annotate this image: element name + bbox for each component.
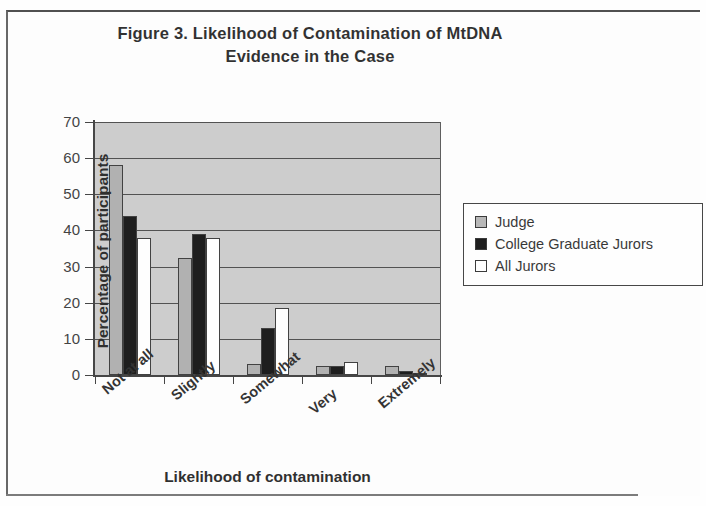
x-tick-5	[440, 376, 441, 384]
bar-very-college-graduate-jurors	[330, 366, 344, 375]
legend-item-all-jurors[interactable]: All Jurors	[475, 255, 702, 277]
legend-label: All Jurors	[495, 258, 555, 274]
x-tick-1	[164, 376, 165, 384]
y-tick-label-50: 50	[36, 185, 80, 202]
legend-item-college-graduate-jurors[interactable]: College Graduate Jurors	[475, 233, 702, 255]
legend-swatch-icon-all-jurors	[475, 260, 487, 272]
gridline-40	[95, 230, 440, 231]
bar-very-all-jurors	[344, 362, 358, 375]
gridline-60	[95, 158, 440, 159]
figure-frame-bottom-edge	[6, 494, 638, 496]
y-tick-10	[85, 339, 94, 340]
x-axis-title: Likelihood of contamination	[95, 468, 440, 486]
y-tick-70	[85, 122, 94, 123]
legend-swatch-icon-college-graduate-jurors	[475, 238, 487, 250]
y-tick-label-0: 0	[36, 366, 80, 383]
legend-label: College Graduate Jurors	[495, 236, 653, 252]
bar-slightly-judge	[178, 258, 192, 375]
x-tick-0	[95, 376, 96, 384]
legend-label: Judge	[495, 214, 535, 230]
legend-swatch-icon-judge	[475, 216, 487, 228]
bar-slightly-college-graduate-jurors	[192, 234, 206, 375]
y-tick-0	[85, 375, 94, 376]
x-tick-2	[233, 376, 234, 384]
y-tick-20	[85, 303, 94, 304]
y-tick-50	[85, 194, 94, 195]
y-tick-40	[85, 230, 94, 231]
bar-slightly-all-jurors	[206, 238, 220, 375]
y-tick-label-70: 70	[36, 113, 80, 130]
chart-title-line-2: Evidence in the Case	[30, 45, 590, 68]
gridline-70	[95, 122, 440, 123]
y-axis-title: Percentage of participants	[94, 146, 112, 356]
y-tick-30	[85, 267, 94, 268]
bar-very-judge	[316, 366, 330, 375]
y-tick-60	[85, 158, 94, 159]
chart-legend: JudgeCollege Graduate JurorsAll Jurors	[463, 203, 703, 286]
bar-not-at-all-college-graduate-jurors	[123, 216, 137, 375]
y-tick-label-40: 40	[36, 221, 80, 238]
plot-area	[95, 122, 441, 375]
y-tick-label-10: 10	[36, 330, 80, 347]
x-tick-3	[302, 376, 303, 384]
legend-item-judge[interactable]: Judge	[475, 211, 702, 233]
y-tick-label-30: 30	[36, 258, 80, 275]
bar-somewhat-judge	[247, 364, 261, 375]
chart-title: Figure 3. Likelihood of Contamination of…	[30, 22, 590, 68]
x-tick-4	[371, 376, 372, 384]
y-tick-label-20: 20	[36, 294, 80, 311]
y-tick-label-60: 60	[36, 149, 80, 166]
chart-title-line-1: Figure 3. Likelihood of Contamination of…	[30, 22, 590, 45]
gridline-50	[95, 194, 440, 195]
bar-extremely-judge	[385, 366, 399, 375]
